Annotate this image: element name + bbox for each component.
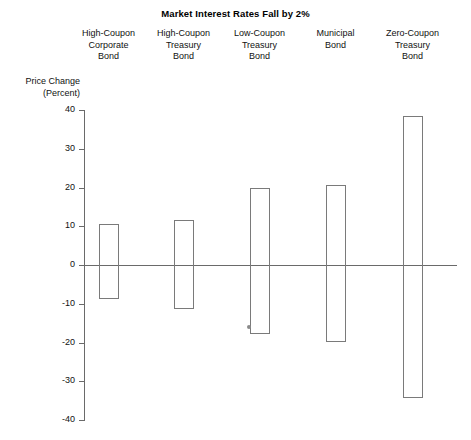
y-tick-mark	[79, 265, 84, 266]
stray-speck-artifact	[247, 325, 251, 329]
bar	[403, 116, 423, 398]
y-tick-mark	[79, 381, 84, 382]
bar	[326, 185, 346, 342]
y-tick-label: 10	[35, 220, 75, 230]
y-tick-label: -10	[35, 298, 75, 308]
y-tick-label: 0	[35, 259, 75, 269]
y-tick-mark	[79, 226, 84, 227]
y-tick-label: -30	[35, 375, 75, 385]
y-tick-mark	[79, 110, 84, 111]
y-tick-label: 40	[35, 104, 75, 114]
y-tick-mark	[79, 420, 84, 421]
y-tick-label: 20	[35, 182, 75, 192]
y-tick-label: -20	[35, 337, 75, 347]
y-tick-mark	[79, 343, 84, 344]
bar	[250, 188, 270, 333]
y-tick-label: -40	[35, 414, 75, 424]
bar	[174, 220, 194, 308]
chart-page: Market Interest Rates Fall by 2% Price C…	[0, 0, 471, 440]
bar	[99, 224, 119, 299]
y-tick-label: 30	[35, 143, 75, 153]
zero-baseline	[84, 265, 457, 266]
y-tick-mark	[79, 149, 84, 150]
y-tick-mark	[79, 304, 84, 305]
category-header: Zero-Coupon Treasury Bond	[367, 28, 459, 63]
y-tick-mark	[79, 188, 84, 189]
plot-area: 403020100-10-20-30-40 High-Coupon Corpor…	[0, 0, 471, 440]
